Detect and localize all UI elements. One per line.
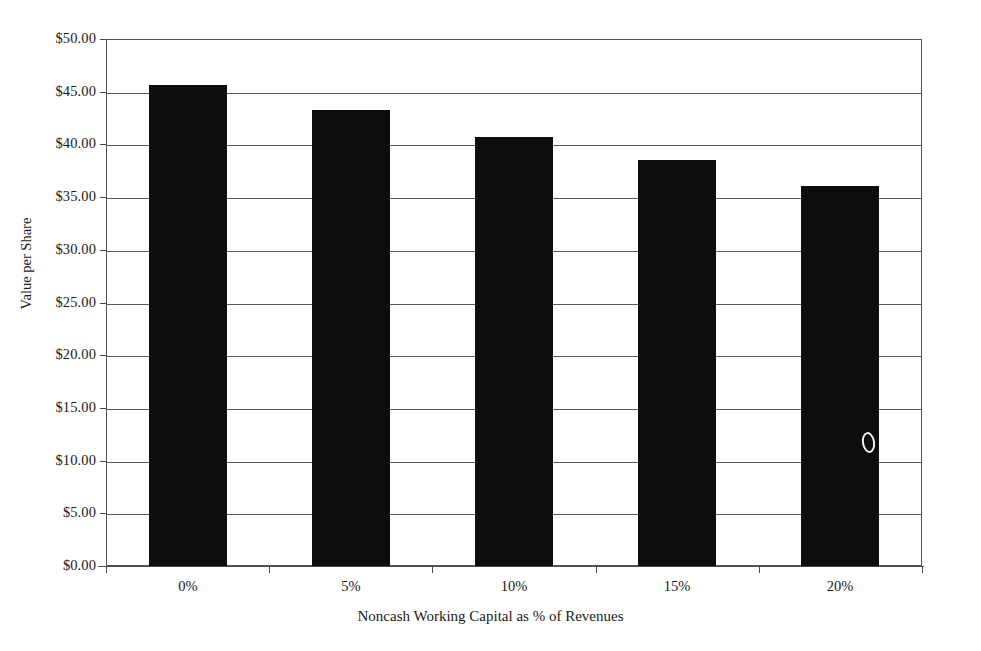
x-axis-label: 0% <box>128 578 248 595</box>
y-axis-title: Value per Share <box>18 184 35 344</box>
bar <box>312 110 390 566</box>
x-axis-label: 20% <box>780 578 900 595</box>
x-axis-tick <box>432 566 433 573</box>
bar <box>638 160 716 566</box>
x-axis-tick <box>759 566 760 573</box>
bars-layer <box>106 39 922 566</box>
y-axis-label: $10.00 <box>10 453 96 468</box>
y-axis-label: $20.00 <box>10 347 96 362</box>
x-axis-tick <box>106 566 107 573</box>
y-axis-label: $45.00 <box>10 84 96 99</box>
x-axis-label: 5% <box>291 578 411 595</box>
x-axis-tick <box>596 566 597 573</box>
x-axis-tick <box>269 566 270 573</box>
x-axis-tick <box>922 566 923 573</box>
y-axis-label: $50.00 <box>10 31 96 46</box>
x-axis-label: 10% <box>454 578 574 595</box>
x-axis-title: Noncash Working Capital as % of Revenues <box>0 608 981 625</box>
bar <box>801 186 879 566</box>
y-axis-label: $15.00 <box>10 400 96 415</box>
x-axis-line <box>98 566 924 567</box>
y-axis-label: $5.00 <box>10 505 96 520</box>
bar <box>149 85 227 566</box>
y-axis-label: $0.00 <box>10 558 96 573</box>
bar <box>475 137 553 566</box>
y-axis-label: $40.00 <box>10 136 96 151</box>
x-axis-label: 15% <box>617 578 737 595</box>
bar-chart: $0.00$5.00$10.00$15.00$20.00$25.00$30.00… <box>0 0 981 651</box>
